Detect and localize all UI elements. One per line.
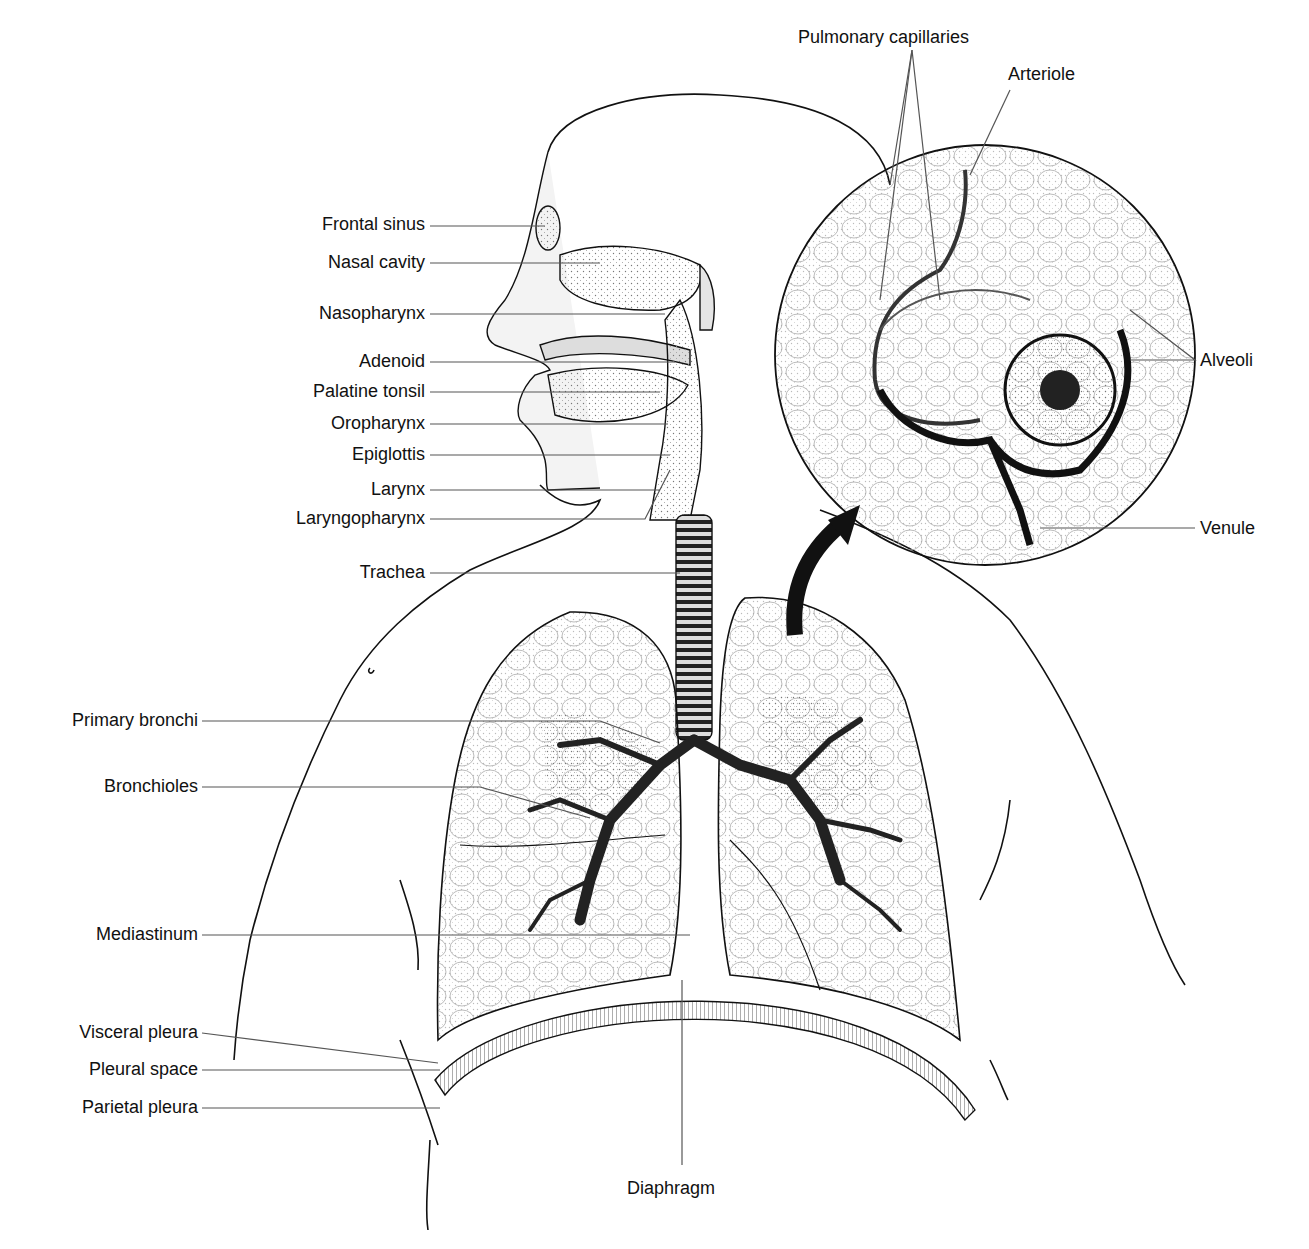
trachea bbox=[676, 515, 712, 740]
label-nasopharynx: Nasopharynx bbox=[230, 303, 425, 323]
label-diaphragm: Diaphragm bbox=[627, 1178, 715, 1198]
label-nasal-cavity: Nasal cavity bbox=[230, 252, 425, 272]
label-visceral-pleura: Visceral pleura bbox=[0, 1022, 198, 1042]
diaphragm bbox=[435, 1001, 975, 1120]
label-trachea: Trachea bbox=[230, 562, 425, 582]
label-venule: Venule bbox=[1200, 518, 1255, 538]
label-pleural-space: Pleural space bbox=[0, 1059, 198, 1079]
label-epiglottis: Epiglottis bbox=[230, 444, 425, 464]
label-adenoid: Adenoid bbox=[230, 351, 425, 371]
label-larynx: Larynx bbox=[230, 479, 425, 499]
label-oropharynx: Oropharynx bbox=[230, 413, 425, 433]
label-pulmonary-capillaries: Pulmonary capillaries bbox=[798, 27, 969, 47]
label-frontal-sinus: Frontal sinus bbox=[230, 214, 425, 234]
head-section bbox=[487, 152, 714, 520]
label-parietal-pleura: Parietal pleura bbox=[0, 1097, 198, 1117]
alveoli-inset bbox=[775, 145, 1195, 565]
respiratory-diagram: Frontal sinus Nasal cavity Nasopharynx A… bbox=[0, 0, 1309, 1249]
label-arteriole: Arteriole bbox=[1008, 64, 1075, 84]
label-mediastinum: Mediastinum bbox=[0, 924, 198, 944]
label-bronchioles: Bronchioles bbox=[0, 776, 198, 796]
label-laryngopharynx: Laryngopharynx bbox=[230, 508, 425, 528]
label-alveoli: Alveoli bbox=[1200, 350, 1253, 370]
label-primary-bronchi: Primary bronchi bbox=[0, 710, 198, 730]
label-palatine-tonsil: Palatine tonsil bbox=[230, 381, 425, 401]
